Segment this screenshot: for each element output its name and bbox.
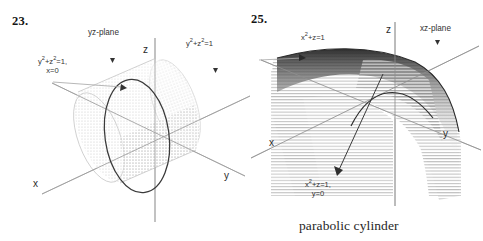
label-surface-equation-23: y2+z2=1	[186, 40, 213, 49]
problem-number-25: 25.	[251, 12, 267, 27]
label-trace-equation-25: x2+z=1, y=0	[305, 181, 331, 198]
textbook-figure-page: 23.	[0, 0, 483, 241]
axis-label-x-23: x	[33, 178, 38, 189]
label-xz-plane: xz-plane	[420, 24, 451, 33]
parabolic-cylinder-surface	[271, 49, 461, 200]
pointer-yz-plane	[110, 58, 115, 63]
problem-number-23: 23.	[12, 14, 28, 29]
figure-23: 23.	[0, 0, 250, 230]
axis-label-z-25: z	[386, 24, 391, 35]
figure-25: 25.	[243, 0, 483, 241]
pointer-xz-plane	[435, 40, 440, 45]
trace-eq-line-2: x=0	[46, 66, 58, 75]
trace-eq25-line-2: y=0	[312, 189, 324, 198]
pointer-surface-eq-23	[213, 68, 218, 73]
label-yz-plane: yz-plane	[88, 28, 119, 37]
axis-label-y-23: y	[224, 170, 229, 181]
axis-label-x-25: x	[269, 137, 274, 148]
label-surface-equation-25: x2+z=1	[301, 34, 325, 43]
axis-label-z-23: z	[143, 44, 148, 55]
figure-25-caption: parabolic cylinder	[299, 218, 399, 234]
label-trace-equation-23: y2+z2=1, x=0	[38, 58, 67, 75]
axis-label-y-25: y	[443, 128, 448, 139]
figure-23-graphic	[0, 0, 250, 230]
